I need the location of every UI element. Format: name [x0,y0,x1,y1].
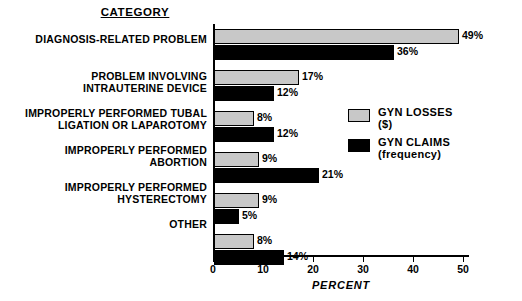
gyn-losses-claims-bar-chart: CATEGORY DIAGNOSIS-RELATED PROBLEM PROBL… [0,0,522,301]
bar-losses-diagnosis-related-problem [214,29,459,44]
x-tick-label-0: 0 [201,263,225,275]
bar-claims-problem-involving-intrauterine-device [214,86,274,101]
x-tick-10 [263,257,264,262]
x-tick-20 [313,257,314,262]
x-tick-label-40: 40 [401,263,425,275]
bar-value-losses-other: 8% [257,235,272,246]
x-tick-label-50: 50 [451,263,475,275]
legend-swatch-gyn-losses [348,109,370,122]
bar-claims-improperly-performed-abortion [214,168,319,183]
x-tick-50 [463,257,464,262]
bar-value-claims-improperly-performed-abortion: 21% [322,169,343,180]
x-axis-label: PERCENT [213,279,469,291]
legend: GYN LOSSES ($) GYN CLAIMS (frequency) [348,106,518,166]
x-tick-label-10: 10 [251,263,275,275]
legend-sublabel-gyn-losses: ($) [378,118,392,130]
bar-value-claims-other: 14% [287,251,308,262]
category-label-other: OTHER [169,218,207,230]
bar-claims-diagnosis-related-problem [214,45,394,60]
legend-item-gyn-claims: GYN CLAIMS (frequency) [348,136,518,166]
bar-value-losses-improperly-performed-abortion: 9% [262,153,277,164]
category-label-improperly-performed-hysterectomy: IMPROPERLY PERFORMED HYSTERECTOMY [65,181,207,205]
bar-claims-improperly-performed-tubal-ligation [214,127,274,142]
category-label-problem-involving-intrauterine-device: PROBLEM INVOLVING INTRAUTERINE DEVICE [83,70,207,94]
x-tick-40 [413,257,414,262]
bar-value-claims-improperly-performed-hysterectomy: 5% [242,210,257,221]
legend-label-gyn-losses: GYN LOSSES [378,106,453,118]
bar-value-losses-improperly-performed-tubal-ligation: 8% [257,112,272,123]
legend-sublabel-gyn-claims: (frequency) [378,148,441,160]
category-labels-column: DIAGNOSIS-RELATED PROBLEM PROBLEM INVOLV… [0,0,207,301]
x-tick-0 [213,257,214,262]
category-label-improperly-performed-tubal-ligation: IMPROPERLY PERFORMED TUBAL LIGATION OR L… [25,107,207,131]
bar-losses-improperly-performed-abortion [214,152,259,167]
category-label-diagnosis-related-problem: DIAGNOSIS-RELATED PROBLEM [35,33,207,45]
bar-value-claims-improperly-performed-tubal-ligation: 12% [277,128,298,139]
category-label-improperly-performed-abortion: IMPROPERLY PERFORMED ABORTION [65,144,207,168]
bar-value-losses-problem-involving-intrauterine-device: 17% [302,71,323,82]
x-tick-label-20: 20 [301,263,325,275]
legend-swatch-gyn-claims [348,139,370,152]
legend-label-gyn-claims: GYN CLAIMS [378,136,450,148]
bar-losses-improperly-performed-tubal-ligation [214,111,254,126]
bar-losses-other [214,234,254,249]
bar-value-losses-improperly-performed-hysterectomy: 9% [262,194,277,205]
bar-claims-improperly-performed-hysterectomy [214,209,239,224]
bar-value-losses-diagnosis-related-problem: 49% [462,30,483,41]
bar-losses-improperly-performed-hysterectomy [214,193,259,208]
x-tick-label-30: 30 [351,263,375,275]
legend-item-gyn-losses: GYN LOSSES ($) [348,106,518,136]
bar-value-claims-diagnosis-related-problem: 36% [397,46,418,57]
bar-losses-problem-involving-intrauterine-device [214,70,299,85]
x-tick-30 [363,257,364,262]
bar-value-claims-problem-involving-intrauterine-device: 12% [277,87,298,98]
